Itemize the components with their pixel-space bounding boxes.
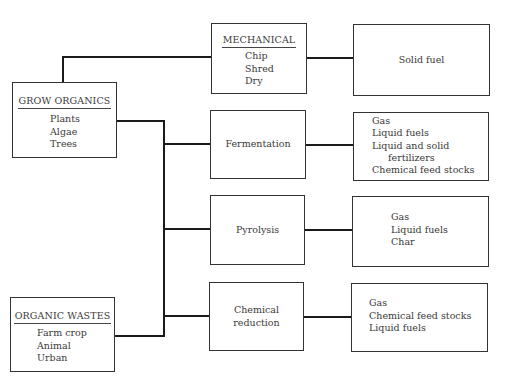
fermentation-output-item: Liquid fuels [372,127,488,139]
organic-wastes-title: ORGANIC WASTES [14,310,112,324]
chemical-output-item: Gas [369,297,487,310]
pyrolysis-label: Pyrolysis [236,224,279,237]
connector-mechanical-to-output [305,57,354,59]
grow-item: Algae [50,126,116,139]
wastes-item: Urban [37,352,114,365]
pyrolysis-output-item: Gas [391,211,488,224]
pyrolysis-output-box: Gas Liquid fuels Char [352,196,489,267]
solid-fuel-box: Solid fuel [353,24,490,96]
mechanical-item: Dry [245,75,306,88]
chemical-label-line1: Chemical [234,304,279,317]
grow-organics-box: GROW ORGANICS Plants Algae Trees [12,82,117,158]
pyrolysis-output-item: Char [391,236,488,249]
mechanical-title: MECHANICAL [222,34,297,48]
connector-grow-up [62,56,64,83]
mechanical-box: MECHANICAL Chip Shred Dry [211,23,307,94]
grow-item: Plants [50,113,116,126]
fermentation-output-item: Gas [372,115,488,127]
grow-organics-title: GROW ORGANICS [18,95,112,109]
fermentation-output-item: Liquid and solid [372,140,488,152]
wastes-item: Farm crop [37,327,114,340]
chemical-output-box: Gas Chemical feed stocks Liquid fuels [351,283,488,352]
fermentation-output-item: Chemical feed stocks [372,164,488,176]
fermentation-output-item: fertilizers [372,152,488,164]
fermentation-label: Fermentation [225,138,290,151]
fermentation-box: Fermentation [210,110,306,179]
solid-fuel-label: Solid fuel [399,54,445,67]
connector-trunk-to-chemical [163,315,210,317]
chemical-output-item: Liquid fuels [369,322,487,335]
grow-item: Trees [50,138,116,151]
connector-grow-to-mechanical [62,56,212,58]
chemical-reduction-box: Chemical reduction [209,282,304,351]
connector-trunk-to-fermentation [163,143,211,145]
connector-trunk-to-pyrolysis [163,228,211,230]
connector-fermentation-to-output [305,144,354,146]
mechanical-item: Shred [245,63,306,76]
connector-wastes-to-trunk [114,335,165,337]
organic-wastes-box: ORGANIC WASTES Farm crop Animal Urban [10,297,115,372]
connector-grow-to-trunk [116,120,165,122]
wastes-item: Animal [37,340,114,353]
chemical-label-line2: reduction [233,317,279,330]
pyrolysis-box: Pyrolysis [210,195,305,265]
connector-chemical-to-output [303,316,352,318]
connector-pyrolysis-to-output [304,229,353,231]
mechanical-item: Chip [245,50,306,63]
pyrolysis-output-item: Liquid fuels [391,224,488,237]
fermentation-output-box: Gas Liquid fuels Liquid and solid fertil… [353,112,489,181]
chemical-output-item: Chemical feed stocks [369,310,487,323]
